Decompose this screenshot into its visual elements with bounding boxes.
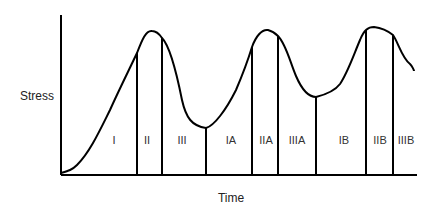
phase-label-IB: IB	[339, 134, 349, 146]
phase-label-IIIB: IIIB	[398, 134, 415, 146]
phase-label-IIIA: IIIA	[289, 134, 306, 146]
phase-label-IA: IA	[226, 134, 236, 146]
phase-label-II: II	[144, 134, 150, 146]
stress-time-diagram	[0, 0, 439, 214]
phase-label-IIA: IIA	[259, 134, 272, 146]
stress-curve	[61, 27, 414, 173]
phase-label-I: I	[112, 134, 115, 146]
phase-label-III: III	[177, 134, 186, 146]
x-axis-label: Time	[218, 191, 244, 205]
y-axis-label: Stress	[20, 89, 54, 103]
phase-label-IIB: IIB	[373, 134, 386, 146]
